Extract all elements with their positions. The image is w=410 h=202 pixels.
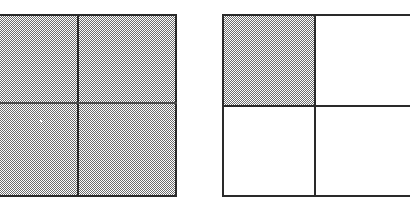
left-square-divider-vertical bbox=[77, 14, 79, 197]
right-square-quadrant-bottom-right bbox=[315, 106, 410, 197]
left-square-quadrant-bottom-left bbox=[0, 103, 78, 197]
left-square-quadrant-bottom-right bbox=[78, 103, 177, 197]
left-square-border-top bbox=[0, 14, 177, 16]
left-square-divider-horizontal bbox=[0, 102, 177, 104]
left-square-border-right bbox=[175, 14, 177, 197]
left-square bbox=[0, 14, 177, 197]
left-square-border-bottom bbox=[0, 195, 177, 197]
right-square-quadrant-bottom-left bbox=[222, 106, 315, 197]
right-square-divider-horizontal bbox=[222, 105, 410, 107]
right-square-border-top bbox=[222, 14, 410, 16]
left-square-speck-artifact bbox=[40, 120, 42, 122]
left-square-quadrant-top-left bbox=[0, 14, 78, 103]
right-square-border-bottom bbox=[222, 195, 410, 197]
left-square-quadrant-top-right bbox=[78, 14, 177, 103]
right-square bbox=[222, 14, 410, 197]
right-square-quadrant-top-left bbox=[222, 14, 315, 106]
right-square-quadrant-top-right bbox=[315, 14, 410, 106]
